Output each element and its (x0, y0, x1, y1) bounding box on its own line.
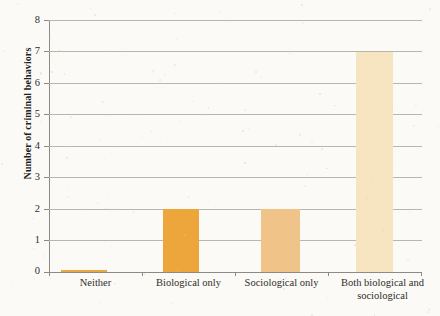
y-tick-label-1: 1 (22, 235, 40, 246)
scan-speckle (275, 144, 276, 145)
scan-speckle (438, 256, 439, 257)
scan-speckle (319, 93, 321, 95)
scan-speckle (393, 166, 394, 167)
scan-speckle (377, 292, 378, 293)
bar-biological-only (163, 209, 199, 272)
bar-neither (61, 270, 107, 272)
scan-speckle (206, 114, 207, 115)
y-tick-label-4: 4 (22, 141, 40, 152)
x-tick-mark-1 (142, 272, 143, 276)
scan-speckle (156, 294, 158, 296)
scan-speckle (6, 186, 8, 188)
scan-speckle (10, 195, 11, 196)
x-tick-mark-4 (421, 272, 422, 276)
scan-speckle (36, 244, 37, 245)
scan-speckle (429, 11, 430, 12)
scan-speckle (413, 125, 415, 127)
scan-speckle (51, 71, 53, 73)
scan-speckle (169, 31, 170, 32)
scan-speckle (285, 27, 286, 28)
scan-speckle (6, 78, 7, 79)
scan-speckle (167, 140, 168, 141)
scan-speckle (244, 109, 246, 111)
scan-speckle (174, 2, 175, 3)
scan-speckle (172, 302, 173, 303)
x-tick-mark-0 (49, 272, 50, 276)
scan-speckle (174, 249, 175, 250)
scan-speckle (21, 179, 22, 180)
scan-speckle (283, 288, 285, 290)
y-tick-label-0: 0 (22, 266, 40, 277)
scan-speckle (111, 153, 112, 154)
scan-speckle (40, 121, 41, 122)
scan-speckle (437, 91, 438, 92)
scan-speckle (206, 11, 207, 12)
scan-speckle (374, 314, 376, 316)
scan-speckle (301, 4, 303, 6)
y-tick-label-8: 8 (22, 15, 40, 26)
scan-speckle (327, 297, 328, 298)
x-axis-label-sociological-only: Sociological only (235, 277, 328, 290)
y-tick-label-6: 6 (22, 78, 40, 89)
scan-speckle (224, 195, 225, 196)
scan-speckle (260, 289, 261, 290)
scan-speckle (244, 162, 245, 163)
scan-speckle (370, 176, 372, 178)
scan-speckle (84, 189, 85, 190)
scan-speckle (69, 197, 70, 198)
y-tick-label-5: 5 (22, 109, 40, 120)
scan-speckle (272, 61, 273, 62)
scan-speckle (415, 104, 416, 105)
x-tick-mark-2 (235, 272, 236, 276)
scan-speckle (179, 121, 181, 123)
scan-speckle (90, 8, 91, 9)
scan-speckle (248, 128, 249, 129)
scan-speckle (299, 134, 301, 136)
scan-speckle (176, 38, 178, 40)
scan-speckle (295, 201, 296, 202)
scan-speckle (184, 234, 185, 235)
scan-speckle (226, 106, 227, 107)
y-tick-label-2: 2 (22, 204, 40, 215)
scan-speckle (223, 82, 224, 83)
scan-speckle (306, 174, 308, 176)
scan-speckle (67, 143, 69, 145)
scan-speckle (94, 14, 96, 16)
scan-speckle (110, 290, 111, 291)
scan-speckle (66, 157, 68, 159)
scan-speckle (279, 278, 281, 280)
x-axis-label-biological-only: Biological only (142, 277, 235, 290)
scan-speckle (188, 196, 189, 197)
scan-speckle (115, 10, 116, 11)
scan-speckle (114, 283, 115, 284)
y-tick-label-3: 3 (22, 172, 40, 183)
scan-speckle (152, 70, 154, 72)
x-tick-mark-3 (328, 272, 329, 276)
y-tick-label-7: 7 (22, 46, 40, 57)
scan-speckle (218, 11, 219, 12)
scan-speckle (399, 13, 400, 14)
scan-speckle (431, 230, 432, 231)
scan-speckle (112, 301, 113, 302)
scan-speckle (144, 273, 145, 274)
scan-speckle (192, 101, 193, 102)
scan-speckle (300, 163, 301, 164)
scan-speckle (111, 51, 112, 52)
scan-speckle (229, 21, 230, 22)
scan-speckle (290, 251, 291, 252)
scan-speckle (70, 116, 72, 118)
scan-speckle (428, 309, 429, 310)
scan-speckle (97, 72, 98, 73)
scan-speckle (294, 218, 296, 220)
scan-speckle (32, 218, 33, 219)
scan-speckle (407, 259, 408, 260)
x-axis-label-both-biological-and-sociological: Both biological and sociological (330, 277, 435, 302)
scan-speckle (405, 160, 406, 161)
bar-both-biological-and-sociological (356, 52, 393, 273)
scan-speckle (301, 101, 302, 102)
scan-speckle (98, 302, 100, 304)
scan-speckle (20, 60, 21, 61)
scan-speckle (105, 208, 106, 209)
scan-speckle (210, 90, 211, 91)
